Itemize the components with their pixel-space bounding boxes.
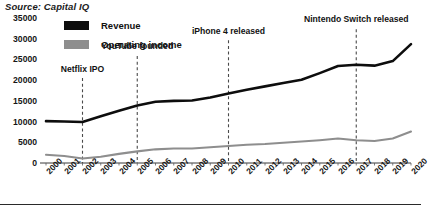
- footer-divider: [0, 204, 421, 205]
- source-caption: Source: Capital IQ: [5, 1, 89, 12]
- y-tick-label: 35000: [0, 13, 37, 23]
- legend-swatch-operating-income: [64, 40, 89, 49]
- annotation-label-1: Netflix IPO: [61, 64, 104, 74]
- annotation-label-2: YouTube founded: [101, 41, 173, 51]
- legend-swatch-revenue: [64, 21, 89, 30]
- y-tick-label: 30000: [0, 34, 37, 44]
- y-tick-label: 10000: [0, 117, 37, 127]
- y-tick-label: 5000: [0, 137, 37, 147]
- y-tick-label: 0: [0, 158, 37, 168]
- annotation-label-3: iPhone 4 released: [192, 26, 265, 36]
- y-tick-label: 15000: [0, 96, 37, 106]
- legend-item-revenue: Revenue: [64, 17, 182, 33]
- y-tick-label: 25000: [0, 54, 37, 64]
- y-tick-label: 20000: [0, 75, 37, 85]
- annotation-label-4: Nintendo Switch released: [304, 14, 409, 24]
- legend-label-revenue: Revenue: [101, 20, 141, 31]
